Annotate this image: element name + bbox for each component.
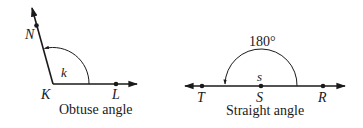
label-point-r: R bbox=[318, 91, 327, 105]
angles-figure bbox=[0, 0, 363, 128]
figure-canvas: N k K L Obtuse angle 180° s T S R Straig… bbox=[0, 0, 363, 128]
label-point-t: T bbox=[197, 91, 205, 105]
obtuse-angle-diagram bbox=[32, 8, 137, 86]
label-point-l: L bbox=[112, 88, 120, 102]
point-s bbox=[259, 84, 264, 89]
label-point-n: N bbox=[25, 28, 34, 42]
label-vertex-k: K bbox=[41, 88, 50, 102]
ray-kn bbox=[32, 8, 53, 84]
label-angle-k: k bbox=[61, 66, 67, 79]
point-n bbox=[34, 23, 39, 28]
label-angle-s: s bbox=[257, 70, 262, 83]
point-t bbox=[200, 84, 205, 89]
straight-angle-diagram bbox=[185, 49, 345, 88]
point-l bbox=[114, 82, 119, 87]
point-r bbox=[321, 84, 326, 89]
label-measure-180: 180° bbox=[249, 35, 276, 49]
caption-obtuse-angle: Obtuse angle bbox=[59, 103, 132, 117]
caption-straight-angle: Straight angle bbox=[226, 104, 304, 118]
